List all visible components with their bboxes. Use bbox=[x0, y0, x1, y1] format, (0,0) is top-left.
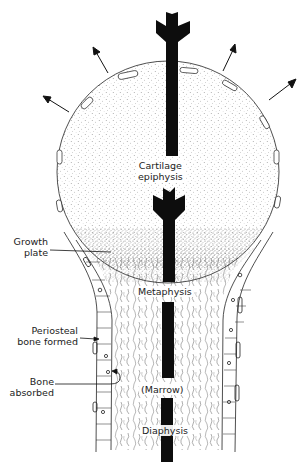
label-metaphysis: Metaphysis bbox=[136, 286, 194, 297]
label-absorbed: absorbed bbox=[4, 387, 54, 398]
label-cartilage: Cartilage bbox=[138, 160, 183, 171]
label-bone: Bone bbox=[4, 376, 54, 387]
lower-shaft-4 bbox=[161, 444, 173, 462]
label-diaphysis: Diaphysis bbox=[140, 425, 190, 436]
lower-shaft-3 bbox=[161, 398, 173, 444]
label-cartilage-epiphysis: Cartilage epiphysis bbox=[136, 160, 185, 182]
lower-shaft-2 bbox=[162, 302, 174, 378]
label-plate: plate bbox=[8, 247, 48, 258]
arrow-up-right-icon bbox=[223, 44, 236, 71]
upper-shaft bbox=[166, 40, 178, 156]
label-marrow: (Marrow) bbox=[139, 384, 185, 395]
label-periosteal: Periosteal bbox=[4, 325, 78, 336]
label-periosteal-bone-formed: Periosteal bone formed bbox=[4, 325, 78, 347]
lower-shaft-1 bbox=[163, 216, 175, 282]
label-epiphysis: epiphysis bbox=[138, 171, 183, 182]
label-growth: Growth bbox=[8, 236, 48, 247]
arrow-left-icon bbox=[43, 96, 69, 112]
label-growth-plate: Growth plate bbox=[8, 236, 48, 258]
label-bone-absorbed: Bone absorbed bbox=[4, 376, 54, 398]
arrow-up-left-icon bbox=[93, 47, 108, 73]
periosteal-leader bbox=[80, 337, 99, 341]
arrow-right-icon bbox=[269, 79, 296, 100]
label-bone-formed: bone formed bbox=[4, 336, 78, 347]
